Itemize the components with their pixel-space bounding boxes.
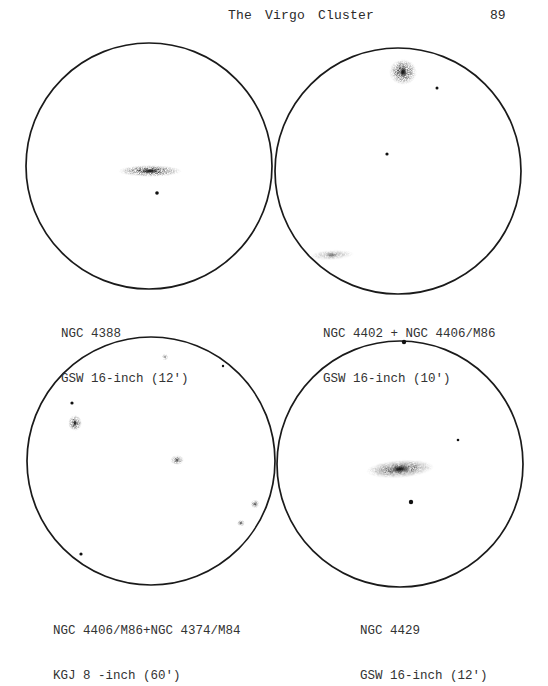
caption-ngc4406-ngc4374: NGC 4406/M86+NGC 4374/M84 KGJ 8 -inch (6… xyxy=(53,594,241,686)
caption-object: NGC 4388 xyxy=(61,327,189,342)
caption-ngc4429: NGC 4429 GSW 16-inch (12') xyxy=(360,594,488,686)
caption-instrument: KGJ 8 -inch (60') xyxy=(53,669,241,684)
caption-object: NGC 4402 + NGC 4406/M86 xyxy=(323,327,496,342)
caption-object: NGC 4406/M86+NGC 4374/M84 xyxy=(53,624,241,639)
caption-ngc4402-ngc4406: NGC 4402 + NGC 4406/M86 GSW 16-inch (10'… xyxy=(323,297,496,402)
star-dot xyxy=(155,191,159,195)
galaxy-core xyxy=(254,502,257,506)
star-dot xyxy=(222,365,224,367)
star-dot xyxy=(409,500,413,504)
sketch-ngc4388 xyxy=(26,43,272,289)
sketch-ngc4402-ngc4406 xyxy=(275,48,521,294)
galaxy-core xyxy=(73,419,77,426)
caption-instrument: GSW 16-inch (12') xyxy=(61,372,189,387)
galaxy-core xyxy=(175,458,179,463)
galaxy-core xyxy=(399,66,407,78)
galaxy-core xyxy=(140,168,159,173)
star-dot xyxy=(385,152,388,155)
star-dot xyxy=(436,87,439,90)
star-dot xyxy=(79,552,82,555)
caption-ngc4388: NGC 4388 GSW 16-inch (12') xyxy=(61,297,189,402)
star-dot xyxy=(457,439,460,442)
caption-instrument: GSW 16-inch (12') xyxy=(360,669,488,684)
caption-object: NGC 4429 xyxy=(360,624,488,639)
galaxy-core xyxy=(240,521,242,524)
caption-instrument: GSW 16-inch (10') xyxy=(323,372,496,387)
